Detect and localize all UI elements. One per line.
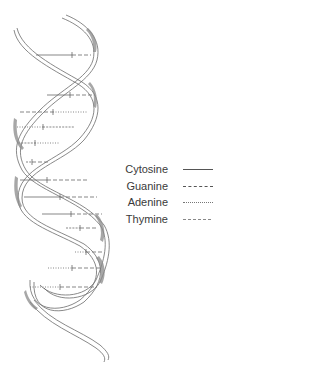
legend-item-thymine: Thymine xyxy=(110,212,228,229)
legend-item-cytosine: Cytosine xyxy=(110,162,228,179)
base-legend: Cytosine Guanine Adenine Thymine xyxy=(110,162,228,228)
solid-line-swatch xyxy=(183,169,213,170)
legend-label: Cytosine xyxy=(125,162,168,176)
legend-item-guanine: Guanine xyxy=(110,179,228,196)
dotted-line-swatch xyxy=(183,202,213,203)
legend-label: Thymine xyxy=(126,212,168,226)
legend-label: Adenine xyxy=(128,195,168,209)
legend-label: Guanine xyxy=(126,179,168,193)
dashed-line-swatch xyxy=(183,186,213,187)
fine-dashed-line-swatch xyxy=(183,219,211,220)
legend-item-adenine: Adenine xyxy=(110,195,228,212)
